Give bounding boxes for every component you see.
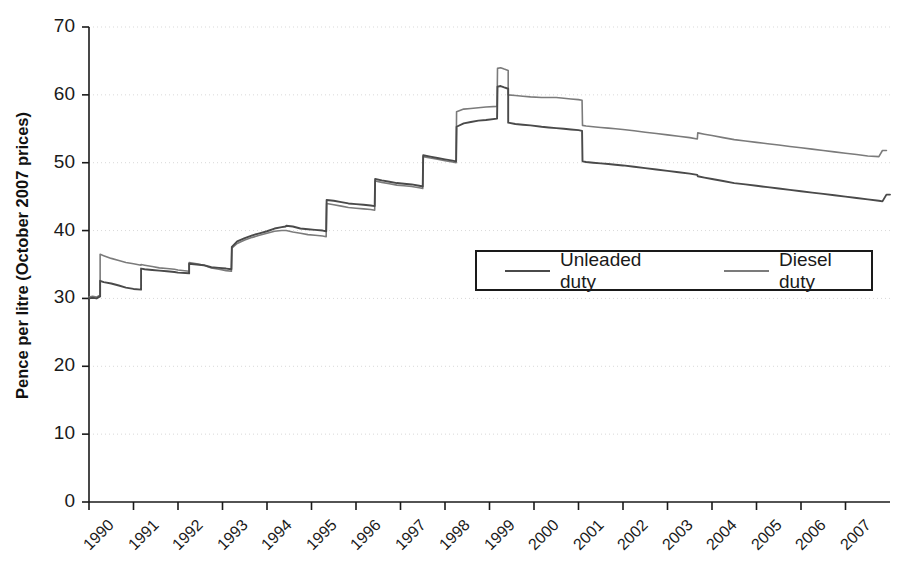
y-tick-label: 0 [31, 490, 75, 512]
chart-container: Pence per litre (October 2007 prices) 01… [0, 0, 898, 586]
line-chart-plot [0, 0, 898, 586]
legend-label-diesel: Diesel duty [779, 249, 871, 293]
y-tick-label: 20 [31, 354, 75, 376]
y-tick-label: 70 [31, 15, 75, 37]
y-tick-label: 50 [31, 151, 75, 173]
legend-item-unleaded-duty: Unleaded duty [505, 252, 680, 289]
y-tick-label: 60 [31, 83, 75, 105]
y-axis-title-text: Pence per litre (October 2007 prices) [14, 111, 33, 398]
grid-lines [89, 27, 890, 434]
legend-label-unleaded: Unleaded duty [560, 249, 680, 293]
legend-item-diesel-duty: Diesel duty [724, 252, 871, 289]
y-tick-label: 30 [31, 286, 75, 308]
y-tick-label: 40 [31, 219, 75, 241]
chart-legend: Unleaded duty Diesel duty [475, 250, 873, 291]
legend-line-swatch-unleaded-icon [505, 270, 550, 272]
legend-line-swatch-diesel-icon [724, 270, 769, 272]
y-tick-label: 10 [31, 422, 75, 444]
